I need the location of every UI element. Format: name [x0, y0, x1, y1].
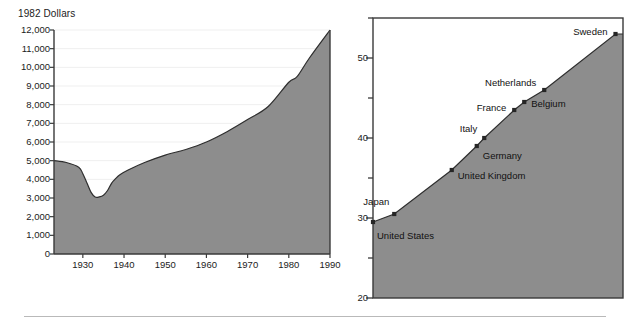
right-y-tick-label: 50: [357, 53, 368, 63]
left-chart-x-tick-labels: 1930194019501960197019801990: [0, 260, 340, 278]
left-y-tick-label: 1,000: [26, 231, 50, 241]
left-y-tick-label: 6,000: [26, 137, 50, 147]
figure-root: 1982 Dollars 01,0002,0003,0004,0005,0006…: [0, 0, 630, 328]
right-data-point-label: Italy: [460, 124, 477, 134]
right-data-point-label: Netherlands: [485, 78, 536, 88]
right-data-point-label: Japan: [363, 197, 389, 207]
left-x-tick-label: 1990: [319, 260, 340, 270]
left-x-tick-label: 1970: [237, 260, 258, 270]
right-data-point-marker: [522, 100, 526, 104]
left-chart-y-tick-labels: 01,0002,0003,0004,0005,0006,0007,0008,00…: [0, 22, 50, 254]
right-area-fill: [373, 34, 623, 298]
left-y-tick-label: 8,000: [26, 100, 50, 110]
left-x-tick-label: 1930: [72, 260, 93, 270]
left-y-tick-label: 11,000: [22, 44, 50, 54]
left-x-tick-label: 1940: [113, 260, 134, 270]
right-data-point-marker: [482, 136, 486, 140]
left-y-tick-label: 5,000: [26, 156, 50, 166]
left-y-tick-label: 0: [45, 249, 50, 259]
left-x-tick-label: 1950: [155, 260, 176, 270]
left-x-tick-label: 1980: [278, 260, 299, 270]
right-chart-y-tick-labels: 20304050: [340, 0, 368, 300]
left-y-tick-label: 2,000: [26, 212, 50, 222]
footer-divider-rule: [24, 316, 606, 317]
right-data-point-label: Belgium: [531, 99, 565, 109]
left-chart-title: 1982 Dollars: [18, 8, 75, 19]
left-chart-area-gdp: 1982 Dollars 01,0002,0003,0004,0005,0006…: [0, 0, 340, 300]
left-y-tick-label: 12,000: [21, 25, 50, 35]
right-chart-country-comparison: 20304050 United StatesJapanUnited Kingdo…: [340, 0, 630, 300]
right-chart-area-series: [373, 34, 623, 298]
right-data-point-marker: [542, 88, 546, 92]
right-data-point-label: Sweden: [573, 27, 607, 37]
left-x-tick-label: 1960: [196, 260, 217, 270]
left-chart-plot-wrap: 01,0002,0003,0004,0005,0006,0007,0008,00…: [0, 22, 340, 290]
left-y-tick-label: 10,000: [21, 63, 50, 73]
right-data-point-marker: [512, 108, 516, 112]
right-data-point-label: United States: [377, 231, 434, 241]
left-y-tick-label: 9,000: [26, 81, 50, 91]
left-chart-svg: [0, 22, 340, 290]
left-y-tick-label: 3,000: [26, 193, 50, 203]
left-y-tick-label: 4,000: [26, 175, 50, 185]
right-data-point-marker: [371, 220, 375, 224]
right-y-tick-label: 20: [357, 293, 368, 303]
right-data-point-marker: [613, 32, 617, 36]
left-y-tick-label: 7,000: [26, 119, 50, 129]
right-data-point-marker: [450, 168, 454, 172]
right-data-point-marker: [475, 144, 479, 148]
right-y-tick-label: 40: [357, 133, 368, 143]
right-data-point-label: France: [477, 103, 507, 113]
right-data-point-label: United Kingdom: [458, 171, 526, 181]
right-data-point-label: Germany: [483, 151, 522, 161]
right-data-point-marker: [392, 212, 396, 216]
right-y-tick-label: 30: [357, 213, 368, 223]
